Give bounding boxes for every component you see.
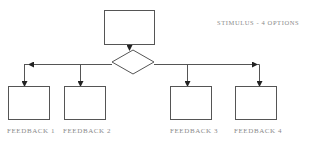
feedback-label-2: FEEDBACK 2 [63, 127, 111, 135]
feedback-box-2 [65, 87, 106, 120]
feedback-box-3 [171, 87, 212, 120]
feedback-box-1 [9, 87, 50, 120]
feedback-label-4: FEEDBACK 4 [234, 127, 282, 135]
feedback-label-1: FEEDBACK 1 [7, 127, 55, 135]
stimulus-annotation: STIMULUS - 4 OPTIONS [217, 19, 299, 26]
stimulus-box [105, 11, 155, 45]
decision-diamond [112, 50, 154, 74]
feedback-label-3: FEEDBACK 3 [170, 127, 218, 135]
feedback-box-4 [236, 87, 277, 120]
